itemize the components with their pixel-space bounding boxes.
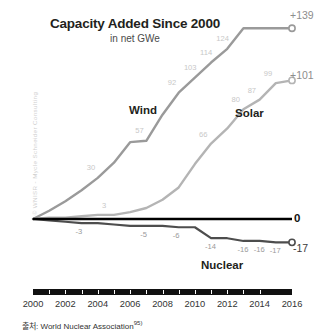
value-label-wind-2012: 124 [216, 34, 229, 43]
plot-area [0, 0, 323, 336]
x-axis-tick-2004 [98, 290, 99, 294]
x-axis-label-2008: 2008 [152, 299, 173, 309]
value-label-wind-2007: 57 [135, 126, 143, 135]
source-footnote: 95) [134, 320, 143, 326]
source-prefix: 출처: [22, 322, 38, 331]
value-label-wind-2004: 30 [87, 163, 95, 172]
x-axis-tick-2006 [130, 290, 131, 294]
value-label-nuclear-2007: -5 [140, 230, 147, 239]
value-label-nuclear-2011: -14 [205, 242, 216, 251]
x-axis-tick-2012 [227, 290, 228, 294]
value-label-wind-2010: 103 [184, 63, 197, 72]
x-axis-label-2002: 2002 [55, 299, 76, 309]
x-axis-tick-minor [211, 290, 212, 294]
x-axis-tick-labels: 200020022004200620082010201220142016 [0, 299, 323, 313]
value-label-nuclear-2009: -6 [173, 231, 180, 240]
x-axis-label-2016: 2016 [282, 299, 303, 309]
x-axis-label-2000: 2000 [23, 299, 44, 309]
series-label-wind: Wind [129, 104, 157, 116]
x-axis-label-2012: 2012 [217, 299, 238, 309]
value-label-solar-2005: 3 [102, 201, 106, 210]
endpoint-label-nuclear: -17 [293, 242, 308, 254]
x-axis-tick-minor [82, 290, 83, 294]
value-label-solar-2015: 99 [264, 69, 272, 78]
value-label-nuclear-2014: -16 [254, 245, 265, 254]
value-label-solar-2013: 80 [231, 95, 239, 104]
value-label-nuclear-2013: -16 [237, 245, 248, 254]
series-line-wind [33, 28, 292, 219]
x-axis-label-2004: 2004 [87, 299, 108, 309]
value-label-nuclear-2003: -3 [76, 227, 83, 236]
value-label-wind-2009: 92 [168, 78, 176, 87]
chart-container: Capacity Added Since 2000 in net GWe © W… [0, 0, 323, 336]
x-axis-tick-2010 [195, 290, 196, 294]
value-label-solar-2011: 66 [199, 130, 207, 139]
x-axis-label-2006: 2006 [120, 299, 141, 309]
x-axis-tick-minor [243, 290, 244, 294]
x-axis-tick-minor [114, 290, 115, 294]
value-label-wind-2011: 114 [200, 48, 212, 57]
x-axis-tick-2014 [260, 290, 261, 294]
value-label-nuclear-2015: -17 [270, 246, 281, 255]
series-label-nuclear: Nuclear [201, 259, 243, 271]
x-axis-tick-minor [49, 290, 50, 294]
endpoint-label-wind: +139 [290, 9, 314, 21]
endpoint-marker-wind [289, 25, 295, 31]
series-line-nuclear [33, 219, 292, 242]
value-label-solar-2014: 87 [248, 86, 256, 95]
endpoint-label-solar: +101 [290, 69, 314, 81]
zero-line-label: 0 [294, 212, 300, 224]
x-axis-tick-minor [179, 290, 180, 294]
x-axis-tick-2008 [163, 290, 164, 294]
source-text: World Nuclear Association [40, 322, 133, 331]
x-axis-label-2010: 2010 [185, 299, 206, 309]
x-axis-tick-2002 [65, 290, 66, 294]
source-note: 출처: World Nuclear Association95) [22, 320, 142, 331]
x-axis-label-2014: 2014 [249, 299, 270, 309]
x-axis-tick-minor [146, 290, 147, 294]
series-label-solar: Solar [235, 107, 264, 119]
